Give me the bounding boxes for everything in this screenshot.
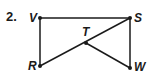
segment-tw	[86, 43, 130, 68]
point-t	[84, 41, 88, 45]
point-s	[128, 16, 132, 20]
label-t: T	[82, 25, 91, 39]
diagram-canvas: 2. V S T R W	[0, 0, 150, 71]
point-w	[128, 66, 132, 70]
geometry-figure: V S T R W	[0, 0, 150, 71]
label-v: V	[29, 11, 38, 25]
label-w: W	[134, 60, 147, 71]
point-r	[38, 64, 42, 68]
point-v	[38, 16, 42, 20]
label-r: R	[28, 59, 37, 71]
label-s: S	[134, 11, 142, 25]
